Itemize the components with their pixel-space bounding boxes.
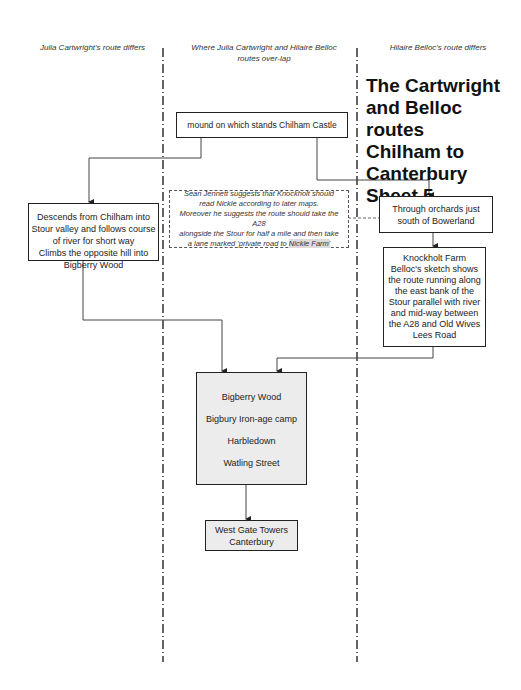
- title-line: Chilham to: [366, 141, 521, 163]
- node-text-line: the east bank of the: [388, 286, 481, 297]
- center-column-heading-text: Where Julia Cartwright and Hilaire Bello…: [191, 43, 336, 63]
- node-text-line: Lees Road: [388, 330, 481, 341]
- title-line: Canterbury: [366, 163, 521, 185]
- node-text-line: Belloc's sketch shows: [388, 264, 481, 275]
- note-text-line: Moreover he suggests the route should ta…: [174, 209, 344, 229]
- note-text-line: alongside the Stour for half a mile and …: [174, 229, 344, 239]
- node-text-line: Bigberry Wood: [31, 259, 155, 271]
- node-text-line: Through orchards just: [392, 203, 480, 215]
- belloc-orchards-node: Through orchards just south of Bowerland: [379, 196, 493, 233]
- node-text-line: the A28 and Old Wives: [388, 319, 481, 330]
- connector-cartwright-to-merged: [83, 260, 222, 371]
- cartwright-route-node: Descends from Chilham into Stour valley …: [28, 203, 159, 261]
- note-text-line: Sean Jennett suggests that Knockholt sho…: [174, 189, 344, 199]
- title-line: and Belloc routes: [366, 97, 521, 141]
- note-text-prefix: a lane marked 'private road to: [188, 239, 289, 248]
- node-text-line: Stour parallel with river: [388, 297, 481, 308]
- node-text-line: Climbs the opposite hill into: [31, 247, 155, 259]
- node-text-line: and mid-way between: [388, 308, 481, 319]
- title-line: The Cartwright: [366, 75, 521, 97]
- nickle-farm-highlight: Nickle Farm': [289, 239, 330, 248]
- waypoint-bigberry-wood: Bigberry Wood: [206, 391, 297, 403]
- right-column-heading-text: Hilaire Belloc's route differs: [390, 43, 487, 52]
- node-text-line: the route running along: [388, 275, 481, 286]
- left-column-heading-text: Julia Cartwright's route differs: [40, 43, 145, 52]
- node-text-line: of river for short way: [31, 235, 155, 247]
- node-text-line: West Gate Towers: [215, 524, 288, 536]
- sean-jennett-note: Sean Jennett suggests that Knockholt sho…: [169, 190, 349, 248]
- node-text-line: Knockholt Farm: [388, 253, 481, 264]
- merged-route-node: Bigberry Wood Bigbury Iron-age camp Harb…: [196, 372, 307, 485]
- end-node-west-gate-towers: West Gate Towers Canterbury: [205, 520, 298, 551]
- center-column-heading: Where Julia Cartwright and Hilaire Bello…: [180, 42, 348, 64]
- waypoint-bigbury-camp: Bigbury Iron-age camp: [206, 413, 297, 425]
- node-text-line: Canterbury: [215, 536, 288, 548]
- page-title: The Cartwright and Belloc routes Chilham…: [366, 75, 521, 207]
- start-node-label: mound on which stands Chilham Castle: [187, 119, 336, 131]
- right-column-heading: Hilaire Belloc's route differs: [388, 42, 488, 53]
- left-column-heading: Julia Cartwright's route differs: [30, 42, 155, 53]
- note-text-line: a lane marked 'private road to Nickle Fa…: [174, 239, 344, 249]
- node-text-line: Stour valley and follows course: [31, 223, 155, 235]
- waypoint-watling-street: Watling Street: [206, 457, 297, 469]
- waypoint-harbledown: Harbledown: [206, 435, 297, 447]
- start-node-chilham-castle: mound on which stands Chilham Castle: [176, 112, 348, 138]
- node-text-line: south of Bowerland: [392, 215, 480, 227]
- belloc-knockholt-farm-node: Knockholt Farm Belloc's sketch shows the…: [383, 247, 486, 347]
- node-text-line: Descends from Chilham into: [31, 211, 155, 223]
- connector-knockholt-to-merged: [277, 346, 433, 371]
- note-text-line: read Nickle according to later maps.: [174, 199, 344, 209]
